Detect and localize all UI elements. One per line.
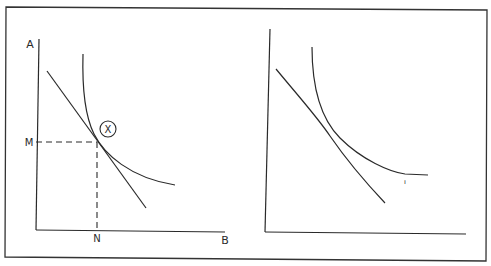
right-indifference-curve <box>312 47 428 175</box>
right-y-axis <box>265 29 270 232</box>
right-x-axis <box>265 232 466 234</box>
right-curve-mark: ı <box>404 178 406 186</box>
outer-frame <box>5 7 487 261</box>
left-x-marker-label: N <box>93 233 100 244</box>
right-panel: ı <box>265 29 466 234</box>
left-y-axis <box>36 39 39 230</box>
left-y-marker-label: M <box>25 137 34 148</box>
left-x-axis-label: B <box>221 234 229 247</box>
left-panel: X A M N B <box>25 38 229 247</box>
figure-canvas: X A M N B ı <box>0 0 491 266</box>
tangency-label: X <box>105 124 112 135</box>
left-y-axis-label: A <box>26 38 34 51</box>
right-budget-line <box>276 69 385 203</box>
left-x-axis <box>36 230 225 232</box>
